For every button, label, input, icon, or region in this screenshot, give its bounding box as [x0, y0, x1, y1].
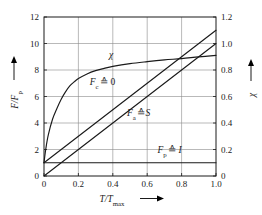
tick-label-y-left: 0	[35, 171, 40, 181]
y-axis-left-title: F/Fp	[10, 56, 23, 110]
y-axis-right-title-text: χ	[247, 92, 257, 98]
tick-label-x: 0.2	[73, 179, 84, 189]
y-axis-right-title-rot: χ	[247, 59, 257, 98]
tick-label-y-right: 0.8	[221, 65, 233, 75]
tick-label-y-right: 0	[221, 171, 226, 181]
annotation-chi: χ	[108, 50, 114, 60]
x-axis-title: T/Tmax	[100, 194, 164, 207]
y-axis-left-title-text: F/Fp	[10, 91, 23, 110]
annotation-fp: Fp≙ I	[156, 144, 182, 158]
tick-label-x: 0	[42, 179, 47, 189]
tick-label-y-left: 8	[35, 65, 40, 75]
x-axis-title-text: T/Tmax	[100, 194, 126, 207]
annotation-fa: Fa≙S	[126, 107, 150, 121]
tick-label-x: 0.8	[176, 179, 188, 189]
tick-label-x: 0.6	[142, 179, 154, 189]
tick-label-y-left: 6	[35, 92, 40, 102]
tick-label-y-right: 0.4	[221, 118, 233, 128]
tick-label-y-left: 12	[30, 12, 39, 22]
y-axis-left-title-rot: F/Fp	[10, 56, 23, 110]
y-axis-right-title: χ	[247, 59, 257, 98]
tick-label-y-left: 4	[35, 118, 40, 128]
x-axis-arrow-head	[157, 196, 164, 202]
chart-figure: 00.20.40.60.81.002468101200.20.40.60.81.…	[0, 0, 262, 215]
tick-label-y-right: 0.6	[221, 92, 233, 102]
tick-label-y-left: 2	[35, 145, 40, 155]
tick-label-y-left: 10	[30, 39, 40, 49]
series-group	[44, 30, 216, 176]
tick-label-y-right: 0.2	[221, 145, 232, 155]
y-axis-right-arrow-head	[248, 59, 254, 66]
tick-label-y-right: 1.0	[221, 39, 233, 49]
annotation-fc: Fc≙ 0	[89, 76, 116, 90]
y-axis-left-arrow-head	[11, 56, 17, 63]
chart-canvas: 00.20.40.60.81.002468101200.20.40.60.81.…	[0, 0, 262, 215]
tick-label-y-right: 1.2	[221, 12, 232, 22]
tick-label-x: 0.4	[107, 179, 119, 189]
